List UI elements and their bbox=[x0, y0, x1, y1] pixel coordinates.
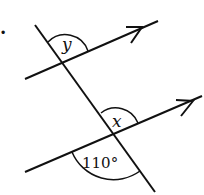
angle-x-label: x bbox=[112, 111, 122, 131]
upper-parallel-line bbox=[25, 21, 158, 79]
parallel-lines-diagram: . y x 110° bbox=[0, 0, 204, 195]
lower-arrow-icon bbox=[176, 100, 193, 116]
upper-arrow-icon bbox=[126, 27, 142, 43]
angle-y-label: y bbox=[61, 34, 72, 54]
angle-110-label: 110° bbox=[82, 154, 118, 172]
question-marker: . bbox=[0, 17, 6, 38]
